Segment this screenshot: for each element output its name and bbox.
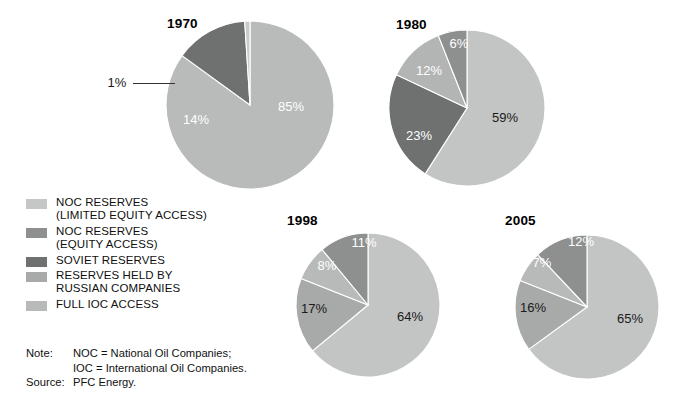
legend-swatch-icon — [26, 228, 47, 238]
slice-label-1998-64: 64% — [397, 309, 423, 324]
legend-item-label: SOVIET RESERVES — [56, 254, 165, 267]
legend-item-full-ioc-access: FULL IOC ACCESS — [26, 298, 236, 311]
pie-slice — [166, 21, 334, 189]
slice-label-1980-6: 6% — [450, 36, 469, 51]
slice-label-1980-59: 59% — [492, 110, 518, 125]
slice-label-1998-17: 17% — [301, 301, 327, 316]
source-text: PFC Energy. — [73, 375, 247, 390]
legend-swatch-icon — [26, 199, 47, 209]
slice-label-1998-11: 11% — [351, 235, 376, 250]
slice-label-1980-23: 23% — [406, 128, 432, 143]
pie-title-1980: 1980 — [396, 17, 427, 32]
legend-item-soviet-reserves: SOVIET RESERVES — [26, 254, 236, 267]
note-label: Note: — [26, 346, 73, 361]
slice-label-1970-14: 14% — [183, 112, 209, 127]
note-line-1: Note: NOC = National Oil Companies; — [26, 346, 247, 361]
slice-label-1998-8: 8% — [318, 258, 337, 273]
legend-swatch-icon — [26, 272, 47, 282]
pie-slice — [245, 21, 250, 105]
legend-swatch-icon — [26, 257, 47, 267]
legend-item-label: RESERVES HELD BY RUSSIAN COMPANIES — [56, 269, 180, 296]
legend-item-label: NOC RESERVES (EQUITY ACCESS) — [56, 225, 158, 252]
pie-slice — [389, 75, 467, 174]
pie-slice — [515, 280, 587, 349]
slice-label-1970-1: 1% — [108, 75, 127, 90]
legend-item-label: FULL IOC ACCESS — [56, 298, 159, 311]
chart-legend: NOC RESERVES (LIMITED EQUITY ACCESS) NOC… — [26, 196, 236, 313]
chart-notes: Note: NOC = National Oil Companies; IOC … — [26, 346, 247, 390]
pie-title-2005: 2005 — [505, 213, 536, 228]
legend-item-label: NOC RESERVES (LIMITED EQUITY ACCESS) — [56, 196, 207, 223]
source-line: Source: PFC Energy. — [26, 375, 247, 390]
pie-title-1970: 1970 — [167, 16, 198, 31]
legend-swatch-icon — [26, 301, 47, 311]
legend-item-noc-limited-equity: NOC RESERVES (LIMITED EQUITY ACCESS) — [26, 196, 236, 223]
slice-label-1970-85: 85% — [278, 99, 304, 114]
note-text-1: NOC = National Oil Companies; — [73, 346, 247, 361]
note-text-2: IOC = International Oil Companies. — [73, 361, 247, 376]
pie-slice — [313, 233, 440, 377]
legend-item-noc-equity: NOC RESERVES (EQUITY ACCESS) — [26, 225, 236, 252]
legend-item-russian-companies: RESERVES HELD BY RUSSIAN COMPANIES — [26, 269, 236, 296]
pie-title-1998: 1998 — [287, 213, 318, 228]
slice-label-2005-7: 7% — [533, 255, 552, 270]
source-label: Source: — [26, 375, 73, 390]
slice-label-2005-12: 12% — [568, 234, 594, 249]
pie-slice — [425, 30, 545, 186]
pie-slice — [182, 21, 250, 105]
leader-line-1970-1pct — [133, 83, 175, 84]
slice-label-2005-65: 65% — [617, 311, 643, 326]
slice-label-2005-16: 16% — [520, 300, 546, 315]
note-line-2: IOC = International Oil Companies. — [26, 361, 247, 376]
slice-label-1980-12: 12% — [416, 63, 442, 78]
note-spacer — [26, 361, 73, 376]
pie-chart-figure: 1970 1% 85% 14% 1980 59% 23% 12% 6% 1998… — [0, 0, 687, 414]
